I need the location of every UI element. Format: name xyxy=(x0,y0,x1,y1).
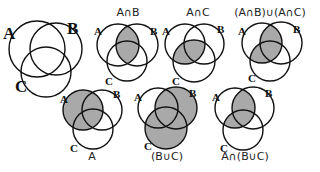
set-label-a: A xyxy=(3,24,16,43)
set-label-b: B xyxy=(150,25,158,37)
set-label-a: A xyxy=(94,25,102,37)
venn-base: ABC xyxy=(3,19,82,97)
set-label-c: C xyxy=(172,75,180,87)
diagram-caption: A∩B xyxy=(116,6,139,19)
set-label-b: B xyxy=(293,23,301,35)
set-label-b: B xyxy=(217,23,225,35)
venn-a-intersect-b-union-c: ABCA∩(B∪C) xyxy=(212,87,274,163)
diagram-caption: (A∩B)∪(A∩C) xyxy=(234,6,306,19)
set-label-c: C xyxy=(248,72,256,84)
diagram-caption: A∩(B∪C) xyxy=(221,150,268,163)
set-label-c: C xyxy=(70,142,78,154)
set-label-a: A xyxy=(162,25,170,37)
circle-c xyxy=(21,47,71,97)
set-label-b: B xyxy=(189,87,197,99)
set-label-a: A xyxy=(238,25,246,37)
set-label-c: C xyxy=(15,77,27,96)
set-label-c: C xyxy=(105,75,113,87)
venn-set-a: ABCA xyxy=(60,88,122,163)
diagram-caption: (B∪C) xyxy=(151,150,183,163)
diagram-caption: A xyxy=(88,150,96,163)
set-label-b: B xyxy=(113,88,121,100)
diagram-caption: A∩C xyxy=(186,6,210,19)
set-label-b: B xyxy=(67,19,78,38)
venn-diagram-figure: ABCABCA∩BABCA∩CABC(A∩B)∪(A∩C)ABCAABC(B∪C… xyxy=(0,0,320,172)
set-label-a: A xyxy=(212,91,220,103)
venn-a-intersect-b: ABCA∩B xyxy=(94,6,158,87)
venn-a-intersect-c: ABCA∩C xyxy=(162,6,225,87)
set-label-a: A xyxy=(134,91,142,103)
venn-ab-union-ac: ABC(A∩B)∪(A∩C) xyxy=(234,6,306,84)
venn-b-union-c: ABC(B∪C) xyxy=(134,87,197,163)
set-label-b: B xyxy=(265,87,273,99)
set-label-a: A xyxy=(60,93,68,105)
